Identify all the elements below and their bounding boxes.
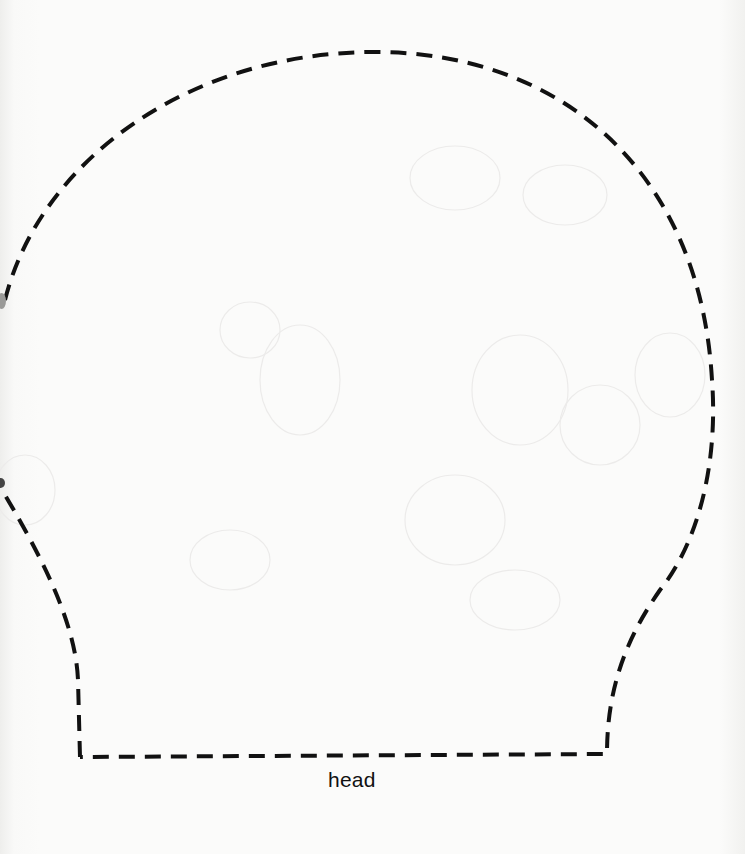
faint-background-pattern — [0, 146, 705, 630]
head-template-outline — [0, 0, 745, 854]
template-label: head — [328, 768, 376, 792]
head-cut-line — [2, 52, 713, 757]
